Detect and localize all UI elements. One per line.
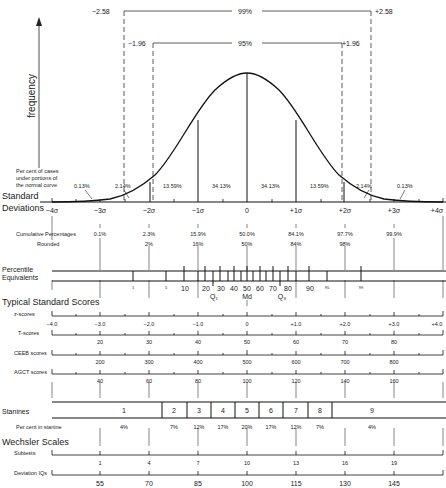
agct-60: 60 [146, 378, 152, 384]
stanine-pct-2: 7% [170, 424, 178, 430]
rounded-label: Rounded [37, 241, 59, 247]
area-pct-1: 0.13% [74, 183, 90, 189]
t-50: 50 [244, 339, 250, 345]
stanine-6: 6 [269, 407, 273, 414]
z-p3: +3.0 [389, 321, 400, 327]
pct-20: 20 [202, 285, 210, 292]
iq-115: 115 [290, 480, 301, 487]
agct-80: 80 [195, 378, 201, 384]
rounded-p2: 98% [339, 241, 350, 247]
stanine-band [52, 402, 446, 418]
stanine-9: 9 [370, 407, 374, 414]
cum-p1: 84.1% [288, 231, 304, 237]
sd-tick-m4: −4σ [46, 207, 59, 214]
iq-85: 85 [194, 480, 202, 487]
sd-tick-p4: +4σ [431, 207, 444, 214]
pct-80: 80 [284, 285, 292, 292]
rounded-p1: 84% [290, 241, 301, 247]
pct-1: 1 [132, 285, 135, 290]
ceeb-scale [52, 350, 443, 355]
rounded-m1: 16% [192, 241, 203, 247]
curve-note-line3: the normal curve [16, 182, 57, 188]
z-m1: −1.0 [193, 321, 204, 327]
z-p4: +4.0 [432, 321, 443, 327]
sd-tick-m1: −1σ [192, 207, 205, 214]
area-pct-5: 34.13% [261, 183, 280, 189]
z-p2: +2.0 [340, 321, 351, 327]
ceeb-800: 800 [389, 359, 398, 365]
stanine-pct-8: 7% [316, 424, 324, 430]
ceeb-700: 700 [340, 359, 349, 365]
agct-scale [52, 369, 443, 374]
subtest-7: 7 [196, 460, 199, 466]
pct-90: 90 [306, 285, 314, 292]
iq-55: 55 [96, 480, 104, 487]
ceeb-300: 300 [144, 359, 153, 365]
ceeb-500: 500 [242, 359, 251, 365]
z-m2: −2.0 [144, 321, 155, 327]
stanine-pct-9: 4% [368, 424, 376, 430]
z-0: 0 [245, 321, 248, 327]
stanine-8: 8 [318, 407, 322, 414]
percentile-label-2: Equivalents [2, 274, 39, 282]
cum-m1: 15.9% [190, 231, 206, 237]
subtests-label: Subtests [14, 450, 36, 456]
ci99-label: 99% [238, 8, 252, 15]
cumulative-label: Cumulative Percentages [16, 231, 76, 237]
sd-tick-p3: +3σ [388, 207, 401, 214]
subtest-1: 1 [98, 460, 101, 466]
stanine-7: 7 [294, 407, 298, 414]
stanine-2: 2 [172, 407, 176, 414]
rounded-0: 50% [241, 241, 252, 247]
agct-140: 140 [340, 378, 349, 384]
stanine-pct-7: 12% [290, 424, 301, 430]
t-20: 20 [97, 339, 103, 345]
stanine-pct-3: 12% [193, 424, 204, 430]
t-60: 60 [293, 339, 299, 345]
frequency-label: frequency [26, 74, 37, 118]
ceeb-200: 200 [95, 359, 104, 365]
sd-tick-0: 0 [245, 207, 249, 214]
wechsler-title: Wechsler Scales [2, 437, 69, 447]
subtest-13: 13 [293, 460, 299, 466]
pct-95: 95 [325, 285, 330, 290]
cum-p2: 97.7% [337, 231, 353, 237]
area-pct-8: 0.13% [397, 183, 413, 189]
iq-130: 130 [339, 480, 351, 487]
sd-tick-p1: +1σ [290, 207, 303, 214]
pct-5: 5 [165, 285, 168, 290]
iq-scale [52, 470, 443, 475]
ceeb-600: 600 [291, 359, 300, 365]
sd-tick-p2: +2σ [339, 207, 352, 214]
pct-10: 10 [181, 285, 189, 292]
sd-tick-m3: −3σ [94, 207, 107, 214]
arrow-up-icon [36, 17, 42, 26]
ci95-label: 95% [238, 40, 252, 47]
cum-m3: 0.1% [94, 231, 107, 237]
area-pct-7: 2.14% [356, 183, 372, 189]
area-pct-2: 2.14% [115, 183, 131, 189]
stanine-pct-5: 20% [241, 424, 252, 430]
t-80: 80 [391, 339, 397, 345]
t-70: 70 [342, 339, 348, 345]
pct-40: 40 [230, 285, 238, 292]
q1-label: Q₁ [210, 293, 218, 301]
ci95-right: +1.96 [342, 40, 360, 47]
sd-tick-m2: −2σ [143, 207, 156, 214]
stanine-1: 1 [122, 407, 126, 414]
t-label: T-scores [18, 330, 39, 336]
stanine-percent-label: Per cent in stanine [16, 424, 62, 430]
iq-70: 70 [145, 480, 153, 487]
ceeb-label: CEEB scores [14, 350, 47, 356]
agct-label: AGCT scores [14, 369, 47, 375]
agct-160: 160 [389, 378, 398, 384]
cum-m2: 2.3% [143, 231, 156, 237]
curve-note-line1: Per cent of cases [16, 168, 59, 174]
subtest-4: 4 [147, 460, 150, 466]
t-40: 40 [195, 339, 201, 345]
subtests-scale [52, 450, 443, 455]
pct-99: 99 [359, 285, 364, 290]
pct-70: 70 [269, 285, 277, 292]
sd-label-1: Standard [2, 191, 39, 201]
t-30: 30 [146, 339, 152, 345]
